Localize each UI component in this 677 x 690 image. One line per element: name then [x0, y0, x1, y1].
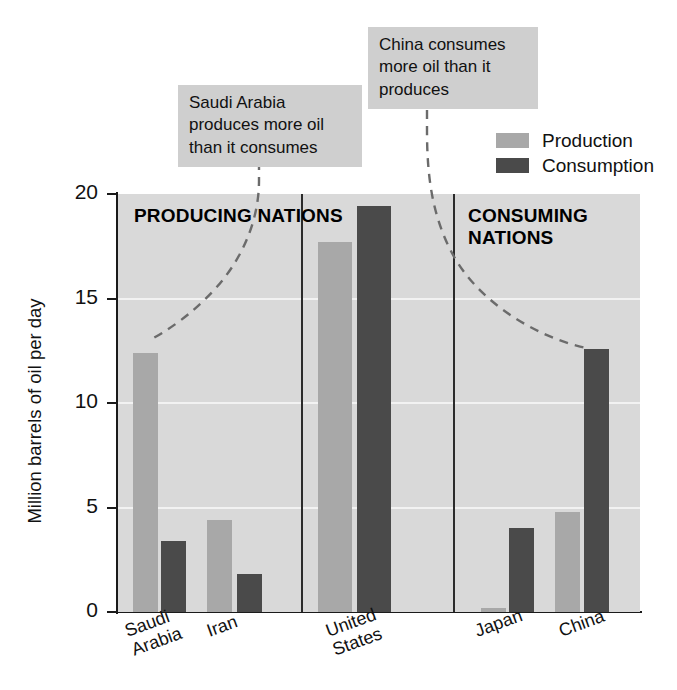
legend: Production Consumption [496, 128, 654, 178]
bar-iran-production [207, 520, 232, 612]
bar-united-states-consumption [357, 206, 391, 612]
y-tick-label-10: 10 [38, 389, 98, 413]
callout-saudi-arabia: Saudi Arabia produces more oil than it c… [178, 85, 362, 167]
bar-japan-consumption [509, 528, 534, 612]
x-axis-label-iran: Iran [204, 611, 240, 641]
bar-saudi-arabia-consumption [161, 541, 186, 612]
oil-production-consumption-chart: Million barrels of oil per day 0 5 10 15… [0, 0, 677, 690]
y-tick-label-5: 5 [38, 494, 98, 518]
legend-item-consumption: Consumption [496, 153, 654, 178]
bar-china-consumption [584, 349, 609, 612]
legend-swatch-production-icon [496, 133, 529, 148]
y-tick-mark-0 [107, 611, 117, 613]
section-heading-consuming-nations: CONSUMING NATIONS [468, 205, 640, 250]
section-heading-producing-nations: PRODUCING NATIONS [134, 205, 343, 227]
y-tick-mark-15 [107, 298, 117, 300]
legend-swatch-consumption-icon [496, 158, 529, 173]
y-tick-mark-10 [107, 402, 117, 404]
bar-iran-consumption [237, 574, 262, 612]
legend-label-consumption: Consumption [542, 155, 654, 177]
bar-china-production [555, 512, 580, 612]
y-tick-mark-5 [107, 507, 117, 509]
y-tick-label-15: 15 [38, 285, 98, 309]
plot-area: PRODUCING NATIONS CONSUMING NATIONS [118, 194, 640, 612]
y-tick-mark-20 [107, 193, 117, 195]
bar-saudi-arabia-production [133, 353, 158, 612]
y-tick-label-0: 0 [38, 598, 98, 622]
bar-united-states-production [318, 242, 352, 612]
group-separator-consuming [453, 194, 455, 612]
legend-label-production: Production [542, 130, 633, 152]
legend-item-production: Production [496, 128, 654, 153]
group-separator-producing [301, 194, 303, 612]
callout-china: China consumes more oil than it produces [368, 27, 538, 109]
y-tick-label-20: 20 [38, 180, 98, 204]
